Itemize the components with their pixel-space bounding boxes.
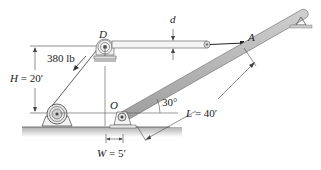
point-a-label: A (247, 31, 255, 43)
length-label: L = 40′ (185, 107, 217, 119)
point-d-label: D (98, 28, 107, 40)
force-label: 380 lb (47, 52, 75, 64)
angle-label: 30° (162, 96, 177, 108)
width-label: W = 5′ (97, 147, 126, 159)
diameter-label: d (170, 13, 176, 25)
ground (22, 127, 182, 137)
point-o-label: O (110, 99, 118, 111)
boom (118, 9, 308, 122)
force-arrow (73, 56, 86, 71)
diagram-canvas: H = 20′ 380 lb D (0, 0, 321, 170)
rod-d (112, 41, 244, 48)
winch-drum (42, 104, 72, 126)
height-label: H = 20′ (9, 72, 43, 84)
